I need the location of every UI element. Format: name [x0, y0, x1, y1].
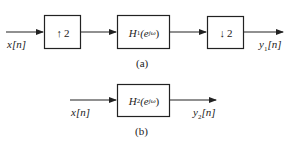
downsample-factor: 2: [227, 27, 233, 39]
h2-name: H: [129, 95, 137, 107]
down-arrow-icon: ↓: [220, 27, 226, 39]
input-label-a: x[n]: [7, 39, 26, 50]
h1-arg-close: ): [156, 27, 160, 39]
downsampler-label: ↓2: [208, 17, 244, 49]
up-arrow-icon: ↑: [57, 27, 63, 39]
output-label-a: y1[n]: [259, 39, 281, 53]
upsampler-label: ↑2: [45, 16, 81, 49]
h2-arg-open: (e: [140, 95, 149, 107]
upsample-factor: 2: [64, 27, 70, 39]
h2-label: H2(ejω): [118, 85, 170, 117]
h2-arg-close: ): [156, 95, 160, 107]
h2-exp: jω: [149, 97, 156, 105]
h1-arg-open: (e: [140, 27, 149, 39]
output-label-b: y2[n]: [193, 107, 215, 121]
input-label-b: x[n]: [71, 107, 90, 118]
caption-a: (a): [136, 58, 148, 69]
h1-exp: jω: [149, 29, 156, 37]
y1-arg: [n]: [267, 38, 281, 50]
h1-label: H1(ejω): [118, 16, 170, 49]
h1-name: H: [129, 27, 137, 39]
caption-b: (b): [135, 126, 148, 137]
y2-arg: [n]: [201, 106, 215, 118]
